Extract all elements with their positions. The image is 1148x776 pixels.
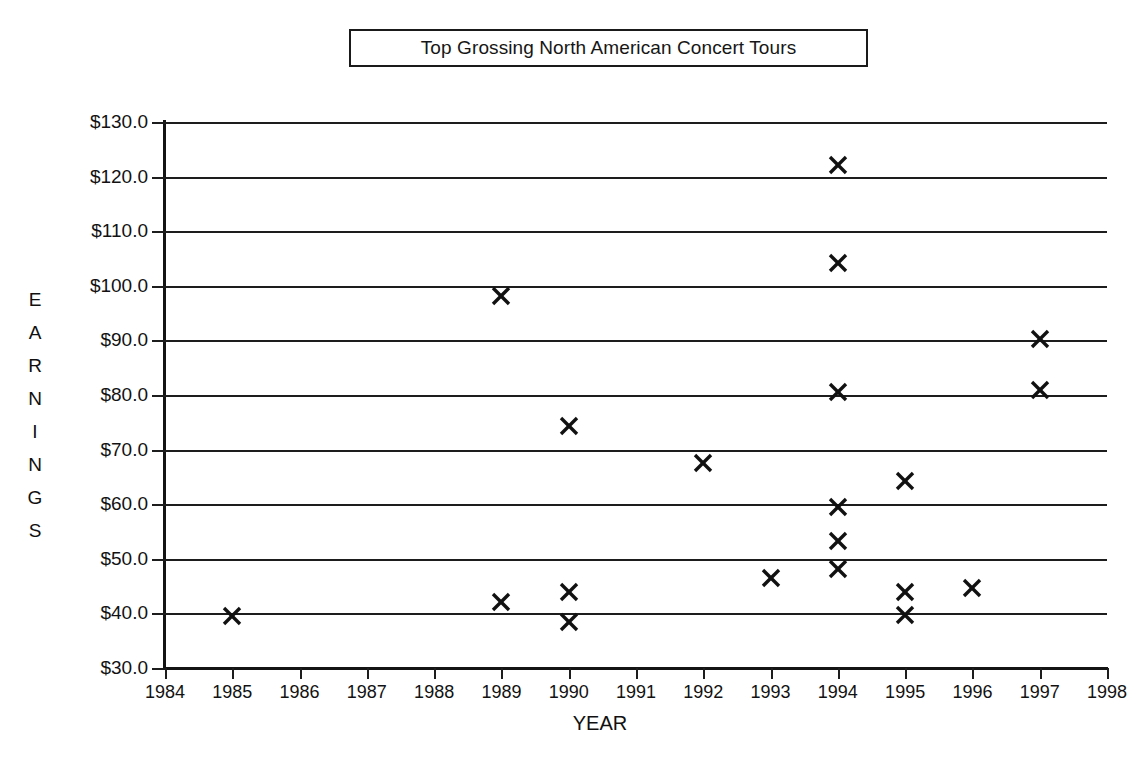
y-axis-tick	[152, 559, 165, 561]
x-axis-tick-label: 1998	[1087, 682, 1127, 703]
y-axis-tick-label: $120.0	[90, 166, 148, 188]
chart-title-box: Top Grossing North American Concert Tour…	[349, 29, 868, 67]
y-axis-title-letter: G	[22, 481, 48, 514]
x-axis-tick-label: 1987	[347, 682, 387, 703]
x-axis-tick-label: 1996	[952, 682, 992, 703]
y-axis-tick-label: $100.0	[90, 275, 148, 297]
x-axis-tick	[1040, 668, 1042, 679]
y-axis-tick-label: $50.0	[100, 548, 148, 570]
x-axis-tick	[972, 668, 974, 679]
gridline	[165, 177, 1107, 179]
data-point-marker	[760, 568, 781, 589]
x-axis-tick-label: 1984	[145, 682, 185, 703]
x-axis-tick	[1107, 668, 1109, 679]
x-axis-tick	[838, 668, 840, 679]
data-point-marker	[895, 605, 916, 626]
gridline	[165, 340, 1107, 342]
y-axis-tick	[152, 286, 165, 288]
y-axis-title-letter: I	[22, 415, 48, 448]
y-axis-title-letter: S	[22, 514, 48, 547]
x-axis-tick-label: 1990	[549, 682, 589, 703]
gridline	[165, 122, 1107, 124]
gridline	[165, 559, 1107, 561]
x-axis-tick-label: 1986	[280, 682, 320, 703]
data-point-marker	[558, 612, 579, 633]
data-point-marker	[827, 382, 848, 403]
y-axis-tick-label: $90.0	[100, 329, 148, 351]
x-axis-tick	[165, 668, 167, 679]
y-axis-tick-label: $40.0	[100, 602, 148, 624]
data-point-marker	[1029, 379, 1050, 400]
y-axis-title-letter: N	[22, 448, 48, 481]
data-point-marker	[558, 415, 579, 436]
data-point-marker	[827, 154, 848, 175]
gridline	[165, 231, 1107, 233]
x-axis-tick	[771, 668, 773, 679]
x-axis-tick-label: 1988	[414, 682, 454, 703]
y-axis-tick-label: $60.0	[100, 493, 148, 515]
y-axis-tick	[152, 340, 165, 342]
gridline	[165, 504, 1107, 506]
gridline	[165, 286, 1107, 288]
y-axis-tick-label: $110.0	[91, 220, 148, 242]
x-axis-tick	[367, 668, 369, 679]
x-axis-tick-label: 1997	[1020, 682, 1060, 703]
x-axis-tick	[636, 668, 638, 679]
y-axis-tick-label: $80.0	[100, 384, 148, 406]
data-point-marker	[895, 470, 916, 491]
x-axis-tick-label: 1992	[683, 682, 723, 703]
data-point-marker	[491, 592, 512, 613]
x-axis-tick	[703, 668, 705, 679]
y-axis-tick-label: $30.0	[100, 657, 148, 679]
y-axis-tick	[152, 395, 165, 397]
y-axis-title-letter: A	[22, 316, 48, 349]
page-title: Top Grossing North American Concert Tour…	[421, 37, 796, 59]
y-axis-tick-label: $70.0	[100, 439, 148, 461]
data-point-marker	[827, 253, 848, 274]
x-axis-tick	[501, 668, 503, 679]
data-point-marker	[962, 577, 983, 598]
data-point-marker	[895, 581, 916, 602]
x-axis-tick	[905, 668, 907, 679]
data-point-marker	[827, 496, 848, 517]
y-axis-tick	[152, 231, 165, 233]
y-axis-tick	[152, 668, 165, 670]
data-point-marker	[827, 558, 848, 579]
y-axis-tick	[152, 450, 165, 452]
x-axis-tick	[232, 668, 234, 679]
y-axis-tick	[152, 122, 165, 124]
data-point-marker	[693, 453, 714, 474]
data-point-marker	[1029, 329, 1050, 350]
x-axis-tick-label: 1985	[212, 682, 252, 703]
y-axis-tick	[152, 613, 165, 615]
gridline	[165, 395, 1107, 397]
x-axis-tick-label: 1994	[818, 682, 858, 703]
data-point-marker	[491, 285, 512, 306]
y-axis-title-letter: E	[22, 283, 48, 316]
x-axis-tick	[300, 668, 302, 679]
y-axis-title-letter: N	[22, 382, 48, 415]
y-axis-title: EARNINGS	[22, 283, 48, 547]
x-axis-tick	[569, 668, 571, 679]
y-axis-tick-label: $130.0	[90, 111, 148, 133]
gridline	[165, 613, 1107, 615]
plot-area	[165, 122, 1107, 668]
y-axis-tick	[152, 504, 165, 506]
x-axis-tick	[434, 668, 436, 679]
x-axis-title-text: YEAR	[573, 712, 627, 735]
y-axis-title-letter: R	[22, 349, 48, 382]
gridline	[165, 450, 1107, 452]
x-axis-tick-label: 1989	[481, 682, 521, 703]
data-point-marker	[558, 582, 579, 603]
x-axis-tick-label: 1991	[616, 682, 656, 703]
x-axis-title: YEAR	[0, 712, 1148, 735]
x-axis-tick-label: 1995	[885, 682, 925, 703]
x-axis-tick-label: 1993	[751, 682, 791, 703]
y-axis-tick	[152, 177, 165, 179]
data-point-marker	[827, 531, 848, 552]
data-point-marker	[222, 606, 243, 627]
